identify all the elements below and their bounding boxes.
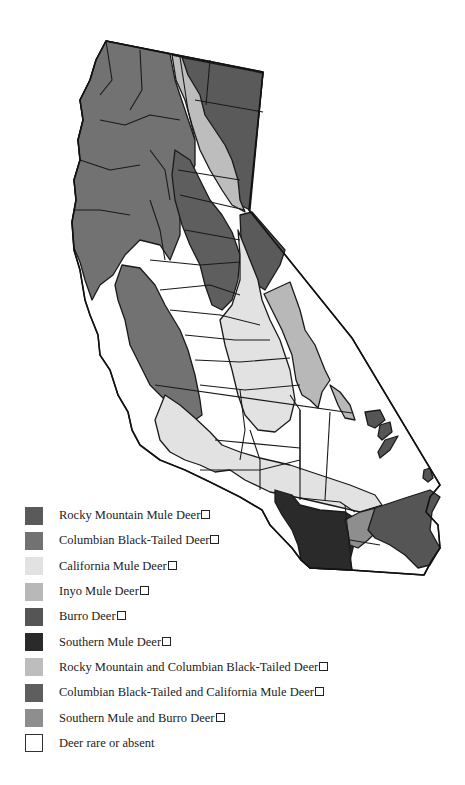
legend-item-columbian-california: Columbian Black-Tailed and California Mu… <box>25 680 425 705</box>
box-glyph-icon <box>168 561 177 570</box>
legend-swatch <box>25 583 43 601</box>
legend-label: Rocky Mountain Mule Deer <box>59 508 210 523</box>
legend-swatch <box>25 507 43 525</box>
legend-label: California Mule Deer <box>59 559 177 574</box>
legend-item-rocky-mountain-mule: Rocky Mountain Mule Deer <box>25 503 425 528</box>
legend-label: Rocky Mountain and Columbian Black-Taile… <box>59 660 328 675</box>
legend-item-rocky-columbian: Rocky Mountain and Columbian Black-Taile… <box>25 655 425 680</box>
legend-item-inyo-mule: Inyo Mule Deer <box>25 579 425 604</box>
legend-label: Columbian Black-Tailed and California Mu… <box>59 685 324 700</box>
legend-swatch <box>25 532 43 550</box>
box-glyph-icon <box>162 637 171 646</box>
legend-label: Southern Mule and Burro Deer <box>59 711 225 726</box>
legend-item-southern-mule: Southern Mule Deer <box>25 629 425 654</box>
legend-swatch <box>25 633 43 651</box>
box-glyph-icon <box>117 611 126 620</box>
legend-swatch <box>25 684 43 702</box>
box-glyph-icon <box>210 535 219 544</box>
box-glyph-icon <box>201 510 210 519</box>
legend-label: Southern Mule Deer <box>59 635 171 650</box>
legend-swatch <box>25 658 43 676</box>
legend-item-california-mule: California Mule Deer <box>25 554 425 579</box>
legend-swatch <box>25 608 43 626</box>
legend-label: Burro Deer <box>59 609 126 624</box>
map-legend: Rocky Mountain Mule Deer Columbian Black… <box>25 503 425 756</box>
box-glyph-icon <box>319 662 328 671</box>
legend-item-burro: Burro Deer <box>25 604 425 629</box>
legend-swatch <box>25 709 43 727</box>
legend-item-columbian-black-tailed: Columbian Black-Tailed Deer <box>25 528 425 553</box>
legend-label: Deer rare or absent <box>59 736 154 751</box>
legend-swatch <box>25 734 43 752</box>
legend-item-southern-burro: Southern Mule and Burro Deer <box>25 705 425 730</box>
legend-item-rare-absent: Deer rare or absent <box>25 731 425 756</box>
box-glyph-icon <box>315 687 324 696</box>
legend-swatch <box>25 557 43 575</box>
legend-label: Inyo Mule Deer <box>59 584 149 599</box>
box-glyph-icon <box>216 713 225 722</box>
box-glyph-icon <box>140 586 149 595</box>
legend-label: Columbian Black-Tailed Deer <box>59 533 219 548</box>
